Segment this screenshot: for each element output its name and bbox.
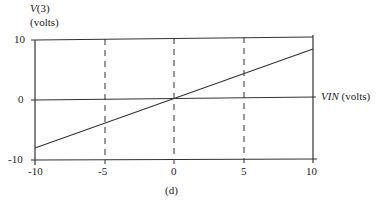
x-tick-neg10: -10 bbox=[28, 165, 43, 177]
x-tick-0: 0 bbox=[171, 165, 177, 177]
x-tick-neg5: -5 bbox=[98, 165, 107, 177]
y-axis-unit: (volts) bbox=[30, 16, 59, 28]
x-tick-10: 10 bbox=[306, 165, 317, 177]
x-tick-5: 5 bbox=[241, 165, 247, 177]
x-axis bbox=[35, 159, 317, 160]
x-axis-label: VIN (volts) bbox=[321, 90, 370, 102]
y-tick-neg10: -10 bbox=[8, 153, 23, 165]
y-axis-label: V(3) bbox=[30, 2, 50, 14]
y-tick-0: 0 bbox=[18, 93, 24, 105]
y-tick-10: 10 bbox=[14, 33, 25, 45]
figure-caption: (d) bbox=[165, 184, 178, 196]
